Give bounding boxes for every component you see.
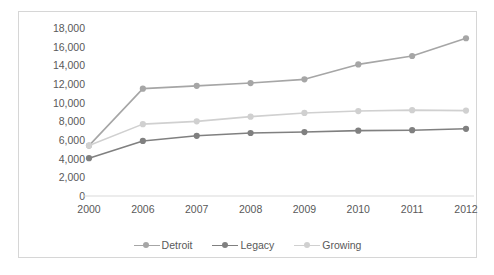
- data-point[interactable]: [140, 138, 146, 144]
- legend-marker-icon: [212, 241, 238, 250]
- x-axis-tick-label: 2007: [185, 203, 208, 215]
- legend-item-legacy[interactable]: Legacy: [212, 239, 274, 251]
- data-point[interactable]: [301, 76, 307, 82]
- x-axis-tick-label: 2009: [293, 203, 316, 215]
- legend-label: Growing: [322, 239, 361, 251]
- legend-item-growing[interactable]: Growing: [294, 239, 361, 251]
- data-point[interactable]: [301, 110, 307, 116]
- x-axis-tick-label: 2008: [239, 203, 262, 215]
- legend-item-detroit[interactable]: Detroit: [134, 239, 193, 251]
- x-axis: 20002006200720082009201020112012: [19, 203, 476, 219]
- data-point[interactable]: [409, 107, 415, 113]
- legend-label: Detroit: [162, 239, 193, 251]
- legend-marker-icon: [134, 241, 160, 250]
- data-point[interactable]: [140, 86, 146, 92]
- data-point[interactable]: [247, 80, 253, 86]
- legend-label: Legacy: [240, 239, 274, 251]
- data-point[interactable]: [409, 53, 415, 59]
- data-point[interactable]: [463, 126, 469, 132]
- data-point[interactable]: [86, 155, 92, 161]
- data-point[interactable]: [140, 121, 146, 127]
- data-point[interactable]: [355, 128, 361, 134]
- chart-container: 02,0004,0006,0008,00010,00012,00014,0001…: [18, 11, 477, 258]
- data-point[interactable]: [355, 61, 361, 67]
- data-point[interactable]: [247, 114, 253, 120]
- data-point[interactable]: [194, 133, 200, 139]
- data-point[interactable]: [463, 108, 469, 114]
- plot-area: [19, 12, 476, 257]
- series-line: [89, 129, 466, 158]
- x-axis-tick-label: 2010: [347, 203, 370, 215]
- legend-marker-icon: [294, 241, 320, 250]
- chart-legend: DetroitLegacyGrowing: [19, 236, 476, 254]
- x-axis-tick-label: 2006: [131, 203, 154, 215]
- series-legacy: [86, 126, 469, 162]
- line-chart-svg: [19, 12, 478, 259]
- data-point[interactable]: [194, 83, 200, 89]
- data-point[interactable]: [409, 127, 415, 133]
- data-point[interactable]: [463, 35, 469, 41]
- data-point[interactable]: [247, 130, 253, 136]
- x-axis-tick-label: 2011: [401, 203, 424, 215]
- x-axis-tick-label: 2000: [77, 203, 100, 215]
- x-axis-tick-label: 2012: [454, 203, 477, 215]
- data-point[interactable]: [86, 143, 92, 149]
- data-point[interactable]: [355, 108, 361, 114]
- data-point[interactable]: [301, 129, 307, 135]
- data-point[interactable]: [194, 118, 200, 124]
